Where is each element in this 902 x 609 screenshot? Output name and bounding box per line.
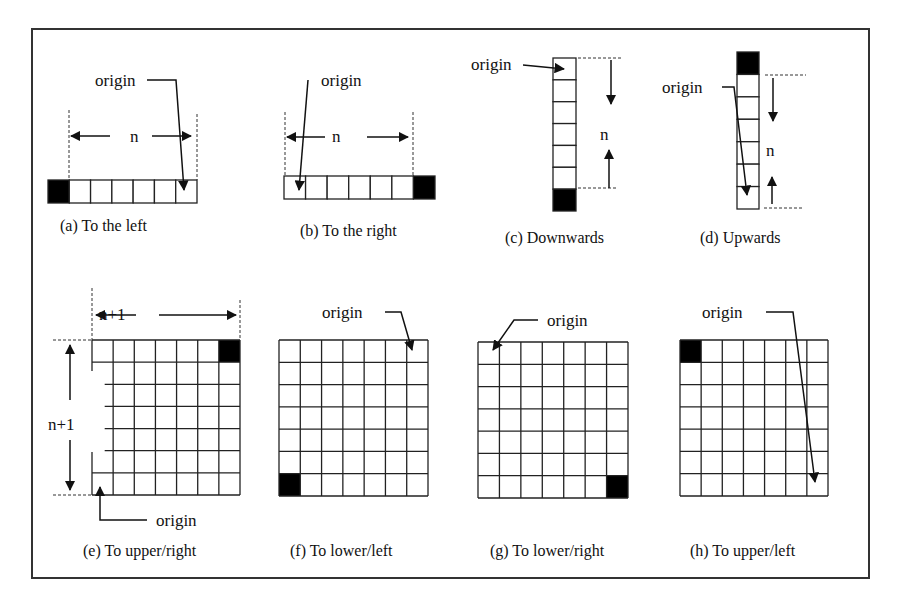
cell bbox=[553, 124, 576, 146]
panel-f: origin(f) To lower/left bbox=[279, 303, 428, 560]
origin-label: origin bbox=[156, 511, 197, 530]
cell bbox=[154, 180, 175, 203]
panel-caption: (c) Downwards bbox=[505, 229, 604, 247]
cell bbox=[112, 180, 133, 203]
panel-h: origin(h) To upper/left bbox=[680, 303, 828, 560]
origin-label: origin bbox=[547, 311, 588, 330]
panel-e: originn+1n+1(e) To upper/right bbox=[48, 288, 240, 560]
cell bbox=[133, 180, 154, 203]
cell bbox=[737, 164, 759, 186]
cell-grid bbox=[553, 58, 576, 211]
cell-grid bbox=[48, 180, 197, 203]
origin-label: origin bbox=[95, 71, 136, 90]
cell bbox=[553, 167, 576, 189]
origin-pointer-arrow-icon bbox=[385, 312, 412, 350]
black-cell bbox=[607, 476, 628, 498]
origin-label: origin bbox=[322, 303, 363, 322]
origin-pointer-arrow-icon bbox=[766, 312, 815, 482]
panel-d: originn(d) Upwards bbox=[662, 52, 806, 247]
panel-b: originn(b) To the right bbox=[284, 71, 435, 240]
panel-caption: (f) To lower/left bbox=[290, 542, 393, 560]
dimension-label: n bbox=[332, 127, 341, 146]
panel-a: originn(a) To the left bbox=[48, 71, 197, 235]
origin-label: origin bbox=[662, 78, 703, 97]
cell-grid bbox=[737, 52, 759, 209]
black-cell bbox=[279, 474, 300, 496]
cell bbox=[737, 97, 759, 119]
black-cell bbox=[219, 340, 240, 362]
cell bbox=[306, 176, 328, 199]
cell bbox=[737, 187, 759, 209]
origin-label: origin bbox=[321, 71, 362, 90]
cell bbox=[327, 176, 349, 199]
origin-pointer-arrow-icon bbox=[100, 487, 147, 520]
panels-group: originn(a) To the leftoriginn(b) To the … bbox=[48, 52, 828, 560]
cell-grid bbox=[279, 340, 428, 496]
black-cell bbox=[553, 189, 576, 211]
panel-caption: (b) To the right bbox=[300, 222, 397, 240]
cell bbox=[553, 145, 576, 167]
cell-grid bbox=[284, 176, 435, 199]
cell bbox=[737, 74, 759, 96]
cell bbox=[69, 180, 90, 203]
origin-label: origin bbox=[471, 55, 512, 74]
black-cell bbox=[413, 176, 435, 199]
cell bbox=[392, 176, 414, 199]
panel-caption: (h) To upper/left bbox=[690, 542, 796, 560]
dimension-label: n bbox=[600, 125, 609, 144]
origin-label: origin bbox=[702, 303, 743, 322]
cell bbox=[370, 176, 392, 199]
panel-caption: (d) Upwards bbox=[700, 229, 780, 247]
cell bbox=[176, 180, 197, 203]
black-cell bbox=[737, 52, 759, 74]
panel-g: origin(g) To lower/right bbox=[478, 311, 628, 560]
scan-direction-diagram: originn(a) To the leftoriginn(b) To the … bbox=[0, 0, 902, 609]
origin-pointer-arrow-icon bbox=[147, 80, 184, 190]
cell bbox=[553, 80, 576, 102]
dimension-label: n bbox=[130, 127, 139, 146]
dimension-label: n bbox=[766, 141, 775, 160]
panel-caption: (g) To lower/right bbox=[490, 542, 605, 560]
origin-pointer-arrow-icon bbox=[299, 80, 308, 190]
cell bbox=[553, 102, 576, 124]
black-cell bbox=[48, 180, 69, 203]
cell-grid bbox=[680, 340, 828, 496]
panel-caption: (e) To upper/right bbox=[83, 542, 197, 560]
cell-grid bbox=[92, 340, 240, 495]
dimension-label: n+1 bbox=[99, 305, 126, 324]
dimension-label-vertical: n+1 bbox=[48, 415, 75, 434]
cell bbox=[91, 180, 112, 203]
black-cell bbox=[680, 340, 701, 362]
cell-grid bbox=[478, 342, 628, 498]
cell bbox=[284, 176, 306, 199]
panel-caption: (a) To the left bbox=[60, 217, 148, 235]
cell bbox=[349, 176, 371, 199]
panel-c: originn(c) Downwards bbox=[471, 55, 621, 247]
